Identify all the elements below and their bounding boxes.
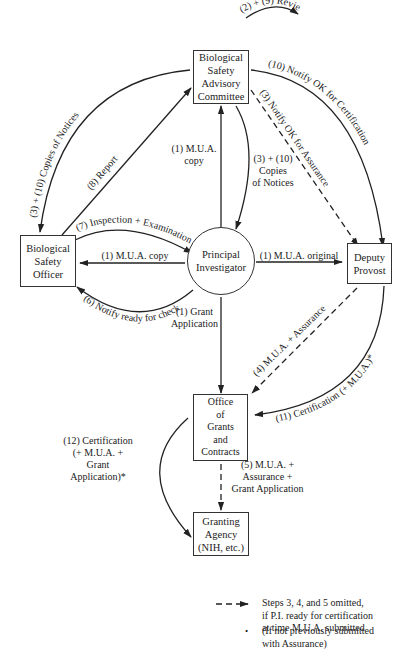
label-grant-app: (1) Grant Application: [167, 306, 222, 330]
node-deputy-provost: Deputy Provost: [347, 243, 392, 284]
label-mua-copy-bso: (1) M.U.A. copy: [95, 250, 175, 262]
label-step5: (5) M.U.A. + Assurance + Grant Applicati…: [225, 459, 310, 495]
edge-cert-12: [160, 418, 191, 537]
node-granting-agency: Granting Agency (NIH, etc.): [193, 512, 249, 556]
node-biological-safety-officer: Biological Safety Officer: [20, 235, 76, 287]
label-mua-copy-bsac: (1) M.U.A. copy: [168, 143, 220, 167]
node-office-of-grants-and-contracts: Office of Grants and Contracts: [193, 394, 248, 461]
label-inspection: (7) Inspection + Examination: [74, 213, 194, 245]
label-copies-center: (3) + (10) Copies of Notices: [248, 153, 298, 189]
label-notify-cert: (10) Notify OK for Certification: [267, 58, 372, 147]
label-copies-left: (3) + (10) Copies of Notices: [27, 109, 81, 218]
label-cert-11: (11) Certification (+ M.U.A.)*: [275, 352, 377, 424]
node-principal-investigator: Principal Investigator: [187, 227, 255, 295]
label-mua-assurance: (4) M.U.A. + Assurance: [250, 302, 328, 379]
label-cert-12: (12) Certification (+ M.U.A. + Grant App…: [58, 435, 138, 483]
legend-asterisk-symbol: •: [245, 625, 248, 638]
label-mua-original: (1) M.U.A. original: [254, 250, 344, 262]
label-review: (2) + (9) Review: [0, 0, 303, 16]
legend-asterisk-text: (If not previously submitted with Assura…: [262, 625, 374, 650]
edge-mua-assurance: [252, 288, 357, 393]
label-report: (8) Report: [84, 153, 120, 192]
node-biological-safety-advisory-committee: Biological Safety Advisory Committee: [193, 50, 249, 104]
